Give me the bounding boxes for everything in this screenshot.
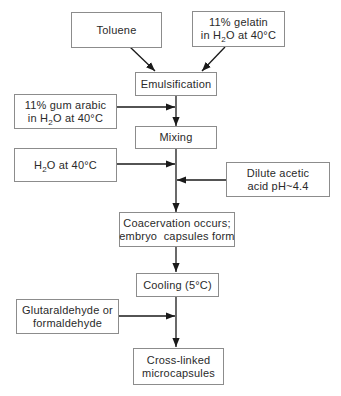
- node-acetic-acid: Dilute acetic acid pH~4.4: [226, 162, 330, 197]
- node-coacervation: Coacervation occurs; embryo capsules for…: [119, 212, 235, 247]
- node-mixing: Mixing: [135, 126, 217, 149]
- node-gum-arabic: 11% gum arabic in H2O at 40°C: [14, 94, 117, 129]
- node-mixing-label: Mixing: [160, 131, 193, 144]
- node-crosslinker-line1: Glutaraldehyde or: [22, 304, 113, 317]
- node-cooling: Cooling (5°C): [136, 273, 219, 297]
- node-cooling-label: Cooling (5°C): [143, 279, 212, 292]
- node-microcapsules: Cross-linked microcapsules: [133, 348, 224, 385]
- node-coacervation-line2: embryo capsules form: [119, 230, 234, 243]
- node-gelatin-line2: in H2O at 40°C: [201, 29, 276, 42]
- flow-connectors: [0, 0, 341, 396]
- arrow-toluene-to-emulsification: [130, 47, 155, 71]
- node-crosslinker-line2: formaldehyde: [22, 317, 113, 330]
- node-acetic-acid-line2: acid pH~4.4: [247, 180, 310, 193]
- node-coacervation-line1: Coacervation occurs;: [119, 217, 234, 230]
- node-gelatin: 11% gelatin in H2O at 40°C: [192, 11, 285, 47]
- node-microcapsules-line1: Cross-linked: [142, 354, 215, 367]
- node-acetic-acid-line1: Dilute acetic: [247, 167, 310, 180]
- node-crosslinker: Glutaraldehyde or formaldehyde: [16, 299, 119, 334]
- arrow-gelatin-to-emulsification: [202, 47, 225, 71]
- node-gelatin-line1: 11% gelatin: [201, 16, 276, 29]
- node-toluene: Toluene: [71, 12, 162, 48]
- node-emulsification: Emulsification: [135, 72, 217, 96]
- node-emulsification-label: Emulsification: [141, 78, 212, 91]
- node-water: H2O at 40°C: [14, 148, 117, 182]
- node-water-label: H2O at 40°C: [34, 159, 97, 172]
- node-microcapsules-line2: microcapsules: [142, 367, 215, 380]
- node-gum-arabic-line1: 11% gum arabic: [25, 99, 106, 112]
- node-gum-arabic-line2: in H2O at 40°C: [25, 112, 106, 125]
- node-toluene-label: Toluene: [97, 24, 137, 37]
